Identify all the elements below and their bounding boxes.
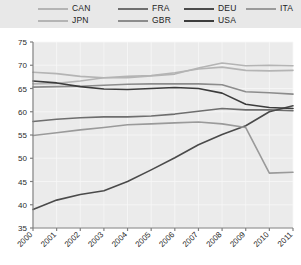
legend-line-swatch bbox=[118, 20, 148, 22]
x-tick-label: 2008 bbox=[205, 230, 224, 249]
legend-line-swatch bbox=[38, 8, 68, 10]
legend-line-swatch bbox=[38, 20, 68, 22]
legend-row: CANFRADEUITA bbox=[0, 3, 301, 14]
legend-label: GBR bbox=[152, 15, 171, 26]
x-tick-label: 2011 bbox=[276, 230, 295, 249]
y-tick-label: 60 bbox=[18, 108, 27, 117]
legend-line-swatch bbox=[246, 8, 276, 10]
x-tick-label: 2001 bbox=[39, 230, 58, 249]
y-tick-label: 65 bbox=[18, 85, 27, 94]
x-tick-label: 2004 bbox=[110, 230, 129, 249]
y-tick-label: 75 bbox=[18, 38, 27, 47]
y-tick-label: 55 bbox=[18, 131, 27, 140]
line-chart: 3540455055606570752000200120022003200420… bbox=[0, 28, 301, 265]
legend-item-can[interactable]: CAN bbox=[38, 3, 91, 14]
x-tick-label: 2006 bbox=[157, 230, 176, 249]
legend-label: JPN bbox=[72, 15, 89, 26]
legend-row: JPNGBRUSA bbox=[0, 15, 301, 26]
y-tick-label: 50 bbox=[18, 154, 27, 163]
x-tick-label: 2003 bbox=[86, 230, 105, 249]
legend-label: CAN bbox=[72, 3, 91, 14]
legend-label: ITA bbox=[280, 3, 293, 14]
x-tick-label: 2007 bbox=[181, 230, 200, 249]
legend-item-ita[interactable]: ITA bbox=[246, 3, 293, 14]
y-tick-label: 45 bbox=[18, 178, 27, 187]
y-tick-label: 70 bbox=[18, 61, 27, 70]
legend-line-swatch bbox=[184, 8, 214, 10]
legend-item-jpn[interactable]: JPN bbox=[38, 15, 89, 26]
legend-label: USA bbox=[218, 15, 236, 26]
legend-item-fra[interactable]: FRA bbox=[118, 3, 170, 14]
chart-plot-area: 3540455055606570752000200120022003200420… bbox=[0, 28, 301, 265]
legend-label: DEU bbox=[218, 3, 237, 14]
legend-label: FRA bbox=[152, 3, 170, 14]
legend-item-usa[interactable]: USA bbox=[184, 15, 236, 26]
x-tick-label: 2002 bbox=[63, 230, 82, 249]
x-tick-label: 2009 bbox=[228, 230, 247, 249]
legend-item-gbr[interactable]: GBR bbox=[118, 15, 171, 26]
y-tick-label: 40 bbox=[18, 201, 27, 210]
chart-legend: CANFRADEUITAJPNGBRUSA bbox=[0, 0, 301, 28]
x-tick-label: 2010 bbox=[252, 230, 271, 249]
x-tick-label: 2005 bbox=[134, 230, 153, 249]
legend-line-swatch bbox=[184, 20, 214, 22]
legend-item-deu[interactable]: DEU bbox=[184, 3, 237, 14]
legend-line-swatch bbox=[118, 8, 148, 10]
